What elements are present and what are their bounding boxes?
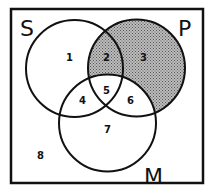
region-label-1: 1 (66, 52, 73, 63)
region-label-3: 3 (140, 52, 147, 63)
region-label-5: 5 (103, 85, 110, 96)
region-label-7: 7 (104, 124, 111, 135)
region-label-6: 6 (127, 95, 134, 106)
region-label-4: 4 (79, 95, 86, 106)
set-label-m: M (144, 164, 163, 189)
set-label-s: S (20, 16, 34, 41)
region-label-8: 8 (37, 150, 44, 161)
region-label-2: 2 (103, 52, 110, 63)
set-label-p: P (178, 16, 191, 41)
venn-diagram: S P M 1 2 3 4 5 6 7 8 (0, 0, 211, 195)
